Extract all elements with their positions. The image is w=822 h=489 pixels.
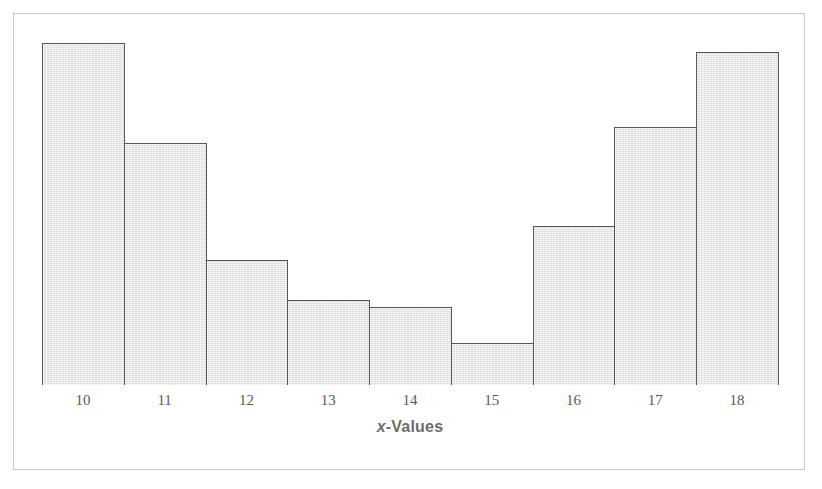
x-axis-title-variable: x	[377, 418, 386, 435]
x-axis-title: x-Values	[42, 418, 778, 436]
histogram-bars	[42, 36, 778, 385]
x-axis-tick-labels: 101112131415161718	[42, 388, 778, 414]
histogram-bar	[206, 260, 289, 385]
x-axis-tick-label: 13	[287, 388, 369, 412]
x-axis-tick-label: 12	[206, 388, 288, 412]
histogram-bar	[287, 300, 370, 385]
x-axis-tick-label: 11	[124, 388, 206, 412]
x-axis-tick-label: 18	[696, 388, 778, 412]
histogram-bar	[614, 127, 697, 385]
histogram-figure: 101112131415161718 x-Values	[0, 0, 822, 489]
x-axis-title-rest: -Values	[386, 418, 443, 435]
x-axis-tick-label: 16	[533, 388, 615, 412]
plot-area	[42, 36, 778, 385]
histogram-bar	[42, 43, 125, 385]
histogram-bar	[451, 343, 534, 385]
x-axis-tick-label: 17	[614, 388, 696, 412]
histogram-bar	[369, 307, 452, 385]
histogram-bar	[696, 52, 779, 385]
x-axis-tick-label: 15	[451, 388, 533, 412]
histogram-bar	[124, 143, 207, 385]
histogram-bar	[533, 226, 616, 385]
x-axis-tick-label: 14	[369, 388, 451, 412]
x-axis-tick-label: 10	[42, 388, 124, 412]
